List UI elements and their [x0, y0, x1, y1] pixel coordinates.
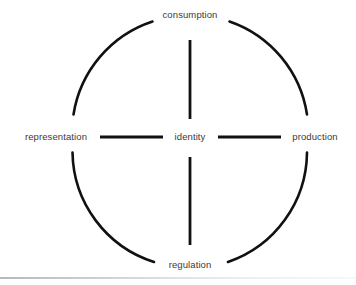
node-label-regulation: regulation	[169, 259, 212, 271]
arc-production-to-regulation-icon	[228, 153, 307, 263]
arc-regulation-to-representation-icon	[73, 153, 155, 263]
node-label-representation: representation	[25, 131, 87, 143]
node-label-production: production	[292, 131, 337, 143]
page-edge-artifact	[0, 277, 356, 279]
node-label-identity: identity	[175, 131, 206, 143]
arc-representation-to-consumption-icon	[74, 22, 153, 115]
circuit-of-culture-diagram: consumption representation identity prod…	[0, 0, 356, 285]
node-label-consumption: consumption	[163, 9, 218, 21]
arc-consumption-to-production-icon	[230, 22, 308, 115]
